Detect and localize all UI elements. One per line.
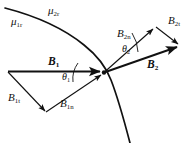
label-theta-1: θ1 <box>62 72 70 83</box>
label-b2t: B2t <box>168 15 180 28</box>
vector-b2 <box>104 47 177 73</box>
label-b1n: B1n <box>60 98 74 111</box>
label-b2n: B2n <box>117 28 131 41</box>
label-b1t: B1t <box>8 92 20 105</box>
figure-canvas: μ1r μ2r B1 B1t B1n θ1 B2 B2n B2t θ2 <box>0 0 192 143</box>
vector-diagram-svg <box>0 0 192 143</box>
label-mu-1r: μ1r <box>11 16 22 29</box>
angle-arc-theta1 <box>73 63 78 82</box>
label-theta-2: θ2 <box>122 44 130 55</box>
vector-b2t <box>156 27 178 44</box>
label-b1: B1 <box>48 56 59 69</box>
label-b2: B2 <box>147 59 158 72</box>
label-mu-2r: μ2r <box>48 5 59 18</box>
